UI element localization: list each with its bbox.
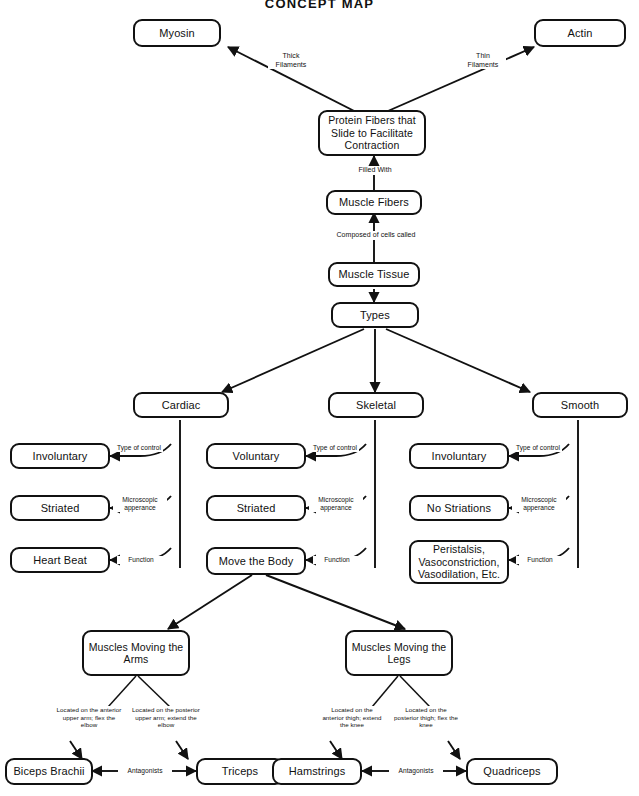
edge-label-cardiac-type-of-control: Type of control [115,444,163,452]
edge-body-to-arms [168,575,252,629]
node-cardiac-microscopic[interactable]: Striated [10,495,110,521]
node-types[interactable]: Types [331,302,419,328]
node-muscles-moving-legs[interactable]: Muscles Moving the Legs [345,630,453,676]
edge-label-smooth-function: Function [516,556,564,564]
node-cardiac[interactable]: Cardiac [133,392,229,418]
node-muscles-moving-arms[interactable]: Muscles Moving the Arms [82,630,190,676]
node-cardiac-function[interactable]: Heart Beat [10,547,110,573]
node-cardiac-control[interactable]: Involuntary [10,443,110,469]
node-myosin[interactable]: Myosin [133,19,221,47]
edge-label-thin-filaments: Thin Filaments [460,52,506,69]
edge-to-triceps [176,741,188,759]
node-biceps-brachii[interactable]: Biceps Brachii [5,758,93,785]
node-quadriceps[interactable]: Quadriceps [466,758,558,785]
edge-label-triceps-location: Located on the posterior upper arm; exte… [131,706,201,729]
node-smooth-control[interactable]: Involuntary [409,443,509,469]
edge-label-skeletal-function: Function [313,556,361,564]
edge-protein-to-actin [372,47,534,118]
edge-label-arms-antagonists: Antagonists [118,767,172,775]
edge-label-composed-of-cells: Composed of cells called [318,231,434,240]
edge-types-to-cardiac [222,329,364,392]
node-smooth[interactable]: Smooth [532,392,628,418]
node-skeletal-microscopic[interactable]: Striated [206,495,306,521]
stem-arms-triceps [138,676,170,707]
concept-map-canvas: CONCEPT MAP [0,0,639,796]
stem-arms-biceps [108,676,136,707]
edge-to-biceps [70,741,82,759]
node-skeletal[interactable]: Skeletal [328,392,424,418]
node-protein-fibers[interactable]: Protein Fibers that Slide to Facilitate … [318,110,426,156]
node-smooth-microscopic[interactable]: No Striations [409,495,509,521]
edge-to-hamstrings [330,741,342,759]
edge-label-smooth-microscopic: Microscopic apperance [512,496,566,512]
stem-legs-quadriceps [400,676,430,707]
node-actin[interactable]: Actin [534,19,626,47]
edge-label-legs-antagonists: Antagonists [389,767,443,775]
node-hamstrings[interactable]: Hamstrings [272,758,362,785]
edge-to-quadriceps [448,741,460,759]
edge-types-to-smooth [386,329,530,392]
edge-label-filled-with: Filled With [336,166,414,175]
node-smooth-function[interactable]: Peristalsis, Vasoconstriction, Vasodilat… [409,540,509,584]
node-skeletal-control[interactable]: Voluntary [206,443,306,469]
edge-label-cardiac-microscopic: Microscopic apperance [113,496,167,512]
edge-label-cardiac-function: Function [117,556,165,564]
edge-label-skeletal-type-of-control: Type of control [311,444,359,452]
page-title: CONCEPT MAP [0,0,639,11]
node-triceps[interactable]: Triceps [196,758,284,785]
edge-label-hamstrings-location: Located on the anterior thigh; extend th… [319,706,385,729]
edge-label-smooth-type-of-control: Type of control [514,444,562,452]
node-muscle-tissue[interactable]: Muscle Tissue [328,262,420,287]
stem-legs-hamstrings [372,676,398,707]
node-muscle-fibers[interactable]: Muscle Fibers [326,190,422,215]
edge-label-quadriceps-location: Located on the posterior thigh; flex the… [393,706,459,729]
edge-label-skeletal-microscopic: Microscopic apperance [309,496,363,512]
node-skeletal-function[interactable]: Move the Body [206,547,306,575]
edge-label-thick-filaments: Thick Filaments [268,52,314,69]
edge-label-biceps-location: Located on the anterior upper arm; flex … [55,706,123,729]
edge-body-to-legs [266,575,405,629]
